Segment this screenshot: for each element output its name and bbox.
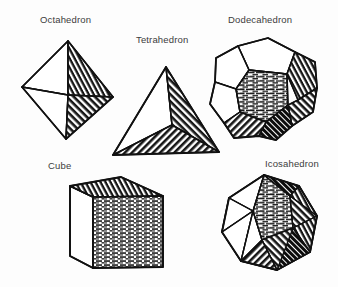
platonic-solids-figure: Octahedron Tetrahedron Dodecahedron Cube…: [0, 0, 338, 287]
shape-dodecahedron: [210, 38, 317, 140]
solids-illustration: [0, 0, 338, 287]
shape-cube: [70, 177, 163, 268]
shape-tetrahedron: [113, 67, 219, 155]
shape-octahedron: [22, 41, 113, 139]
shape-icosahedron: [222, 175, 317, 270]
